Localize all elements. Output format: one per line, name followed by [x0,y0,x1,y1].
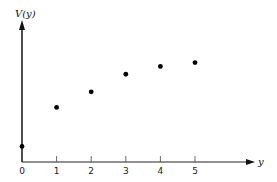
x-tick-label: 4 [158,166,164,176]
data-point [20,144,25,149]
scatter-chart: y V(y) 012345 [0,0,277,182]
x-ticks: 012345 [19,156,198,176]
data-points [20,60,198,149]
y-axis-arrow-icon [19,20,25,30]
x-tick-label: 3 [123,166,129,176]
data-point [89,89,94,94]
data-point [54,105,59,110]
data-point [123,72,128,77]
x-tick-label: 5 [192,166,198,176]
data-point [193,60,198,65]
y-axis-label: V(y) [15,8,36,19]
x-tick-label: 2 [88,166,94,176]
x-axis-label: y [257,156,264,167]
x-tick-label: 0 [19,166,25,176]
x-axis-arrow-icon [246,159,255,165]
data-point [158,64,163,69]
x-tick-label: 1 [54,166,60,176]
axes: y V(y) [15,8,264,167]
